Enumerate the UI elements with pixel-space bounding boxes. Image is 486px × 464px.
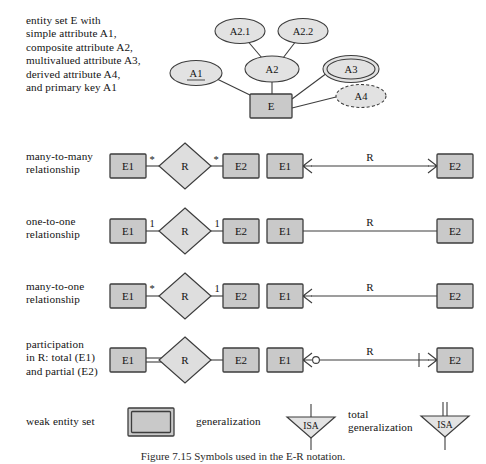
part-alt-entity-e1-label: E1 <box>279 354 291 366</box>
mo-alt-entity-e2-label: E2 <box>449 290 461 302</box>
diagram-weak-entity-set <box>128 408 174 436</box>
mm-entity-e2-label: E2 <box>235 160 247 172</box>
part-relationship-label: R <box>181 354 189 366</box>
attribute-a4-label: A4 <box>355 91 369 102</box>
attribute-a4-derived: A4 <box>336 85 386 108</box>
mo-relationship-label: R <box>181 290 189 302</box>
mo-alt-relationship-label: R <box>366 281 374 293</box>
attribute-a3-label: A3 <box>345 64 358 75</box>
mo-alt-entity-e1-label: E1 <box>279 290 291 302</box>
figure-caption: Figure 7.15 Symbols used in the E-R nota… <box>0 450 486 464</box>
diagram-total-generalization: ISA <box>421 402 469 450</box>
oo-alt-entity-e1-label: E1 <box>279 225 291 237</box>
part-entity-e1-label: E1 <box>122 354 134 366</box>
mo-right-cardinality: 1 <box>214 283 219 294</box>
mm-relationship-label: R <box>181 160 189 172</box>
oo-relationship-label: R <box>181 225 189 237</box>
part-entity-e2-label: E2 <box>235 354 247 366</box>
diagram-entity-attributes: A2.1 A2.2 A2 A1 A3 <box>170 19 386 119</box>
mm-alt-entity-e1-label: E1 <box>279 160 291 172</box>
part-alt-relationship-label: R <box>366 345 374 357</box>
oo-left-cardinality: 1 <box>149 218 154 229</box>
mo-entity-e1-label: E1 <box>122 290 134 302</box>
diagram-participation: E1 R E2 E1 E2 R <box>110 337 473 383</box>
mm-entity-e1-label: E1 <box>122 160 134 172</box>
oo-alt-entity-e2-label: E2 <box>449 225 461 237</box>
attribute-a1-primary-key: A1 <box>170 61 222 86</box>
attribute-a2-1-label: A2.1 <box>230 26 251 37</box>
part-alt-entity-e2-label: E2 <box>449 354 461 366</box>
generalization-isa-label: ISA <box>303 421 318 431</box>
diagram-generalization: ISA <box>287 404 335 450</box>
oo-entity-e1-label: E1 <box>122 225 134 237</box>
entity-e-label: E <box>268 100 275 112</box>
attribute-a2-label: A2 <box>266 64 279 75</box>
total-generalization-isa-label: ISA <box>437 420 452 430</box>
diagram-one-to-one: E1 R E2 1 1 E1 E2 R <box>110 208 473 254</box>
oo-entity-e2-label: E2 <box>235 225 247 237</box>
diagram-many-to-one: E1 R E2 * 1 E1 E2 R <box>110 273 473 319</box>
er-notation-figure: entity set E with simple attribute A1, c… <box>0 0 486 464</box>
diagram-many-to-many: E1 R E2 * * E1 E2 R <box>110 143 473 189</box>
attribute-a2-2: A2.2 <box>278 19 328 44</box>
attribute-a2-1: A2.1 <box>215 19 265 44</box>
attribute-a2-2-label: A2.2 <box>293 26 314 37</box>
mm-alt-entity-e2-label: E2 <box>449 160 461 172</box>
mo-entity-e2-label: E2 <box>235 290 247 302</box>
part-optional-circle-icon <box>313 357 320 364</box>
mm-right-cardinality: * <box>213 154 218 165</box>
attribute-a3-multivalued: A3 <box>323 56 379 83</box>
attribute-a2-composite: A2 <box>245 56 299 82</box>
mm-left-cardinality: * <box>149 154 154 165</box>
oo-right-cardinality: 1 <box>214 218 219 229</box>
entity-e: E <box>250 94 292 118</box>
attribute-a1-label: A1 <box>190 68 203 79</box>
oo-alt-relationship-label: R <box>366 216 374 228</box>
mm-alt-relationship-label: R <box>366 151 374 163</box>
mo-left-cardinality: * <box>149 283 154 294</box>
